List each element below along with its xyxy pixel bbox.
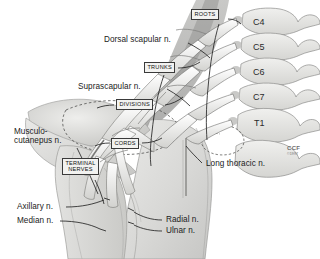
nerve-label-ulnar: Ulnar n. [166,226,195,235]
nerve-label-radial: Radial n. [166,215,199,224]
nerve-label-suprascapular: Suprascapular n. [78,82,141,91]
nerve-label-axillary: Axillary n. [17,202,53,211]
vertebra-label-c6: C6 [253,67,265,77]
nerve-label-musculocutaneous-line2: cutanepus n. [14,136,62,145]
nerve-label-dorsal-scapular: Dorsal scapular n. [104,35,171,44]
section-label-trunks: TRUNKS [144,62,175,73]
section-label-divisions: DIVISIONS [116,99,153,110]
nerve-label-musculocutaneous-line1: Musculo- [14,127,48,136]
nerve-label-median: Median n. [17,216,53,225]
section-label-terminal-nerves: TERMINAL NERVES [62,158,99,175]
brachial-plexus-figure: ROOTS TRUNKS DIVISIONS CORDS TERMINAL NE… [0,0,320,259]
vertebra-label-c5: C5 [253,42,265,52]
vertebra-label-c4: C4 [253,17,265,27]
section-label-cords: CORDS [111,138,139,149]
signature-year: ©1997 [287,152,298,156]
signature-mark: CCF [287,145,300,151]
vertebra-label-t1: T1 [254,118,265,128]
section-label-roots: ROOTS [191,9,219,20]
vertebra-label-c7: C7 [253,92,265,102]
nerve-label-long-thoracic: Long thoracic n. [206,159,265,168]
